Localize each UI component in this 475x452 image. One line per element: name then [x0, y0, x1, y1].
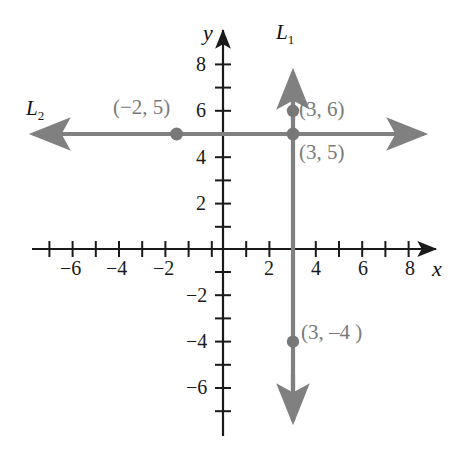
y-axis — [215, 30, 231, 436]
y-tick-label-8: 8 — [196, 54, 206, 74]
point-3-5 — [287, 128, 300, 141]
x-tick-label-minus-6: −6 — [60, 258, 81, 278]
point-3-6 — [287, 105, 299, 117]
coordinate-plane-figure: −6 −4 −2 2 4 6 8 8 6 4 2 −2 −4 −6 x y L1… — [0, 0, 475, 452]
y-tick-label-2: 2 — [196, 193, 206, 213]
y-axis-label: y — [203, 22, 213, 44]
x-tick-label-6: 6 — [358, 258, 368, 278]
point-label-3-6: (3, 6) — [299, 99, 345, 120]
y-tick-label-minus-6: −6 — [186, 377, 207, 397]
line-label-L2-subscript: 2 — [38, 108, 45, 123]
point-label-minus-2-5: (−2, 5) — [113, 97, 170, 118]
y-tick-label-minus-4: −4 — [186, 331, 207, 351]
line-label-L2: L2 — [26, 98, 44, 122]
x-tick-label-2: 2 — [264, 258, 274, 278]
y-tick-label-6: 6 — [196, 100, 206, 120]
line-label-L2-letter: L — [26, 96, 38, 120]
point-label-3-minus-4: (3, –4 ) — [301, 322, 362, 343]
line-label-L1-subscript: 1 — [288, 32, 295, 47]
point-label-3-5: (3, 5) — [299, 142, 345, 163]
x-tick-label-minus-4: −4 — [106, 258, 127, 278]
x-tick-label-minus-2: −2 — [153, 258, 174, 278]
x-axis — [32, 241, 436, 257]
x-axis-label: x — [432, 258, 442, 280]
y-tick-label-4: 4 — [196, 147, 206, 167]
point-minus-2-5 — [170, 128, 183, 141]
y-tick-label-minus-2: −2 — [186, 285, 207, 305]
data-points — [170, 105, 299, 348]
x-tick-label-8: 8 — [405, 258, 415, 278]
line-label-L1-letter: L — [276, 20, 288, 44]
x-tick-label-4: 4 — [311, 258, 321, 278]
graph-canvas — [0, 0, 475, 452]
point-3-minus-4 — [287, 335, 299, 347]
line-label-L1: L1 — [276, 22, 294, 46]
